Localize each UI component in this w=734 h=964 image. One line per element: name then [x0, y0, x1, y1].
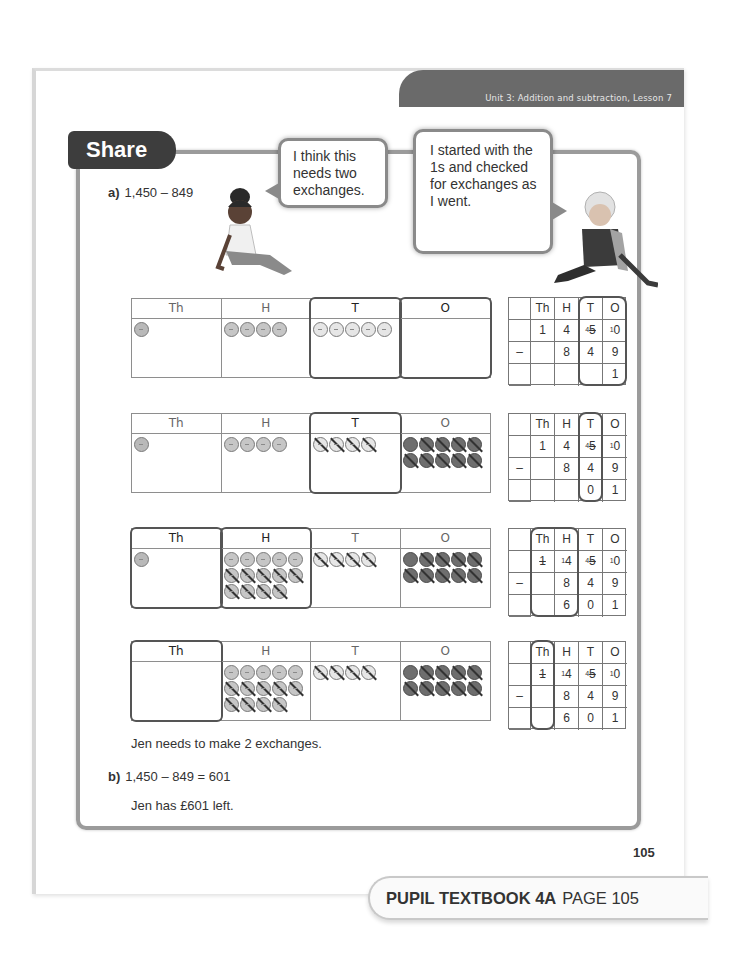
section-title-text: Share: [86, 137, 147, 163]
pv-header: T: [311, 529, 400, 549]
column-method-grid: ThHTO1144510–849601: [508, 528, 626, 616]
counter-icon: [329, 665, 344, 680]
counter-icon: [403, 552, 418, 567]
counter-icon: [224, 584, 239, 599]
pv-header: T: [311, 299, 400, 319]
page-number: 105: [633, 845, 655, 860]
column-method-cell: [531, 686, 555, 708]
footer-tab: PUPIL TEXTBOOK 4A PAGE 105: [368, 876, 708, 920]
counter-icon: [419, 437, 434, 452]
column-method-cell: Th: [531, 298, 555, 320]
counter-icon: [240, 552, 255, 567]
counter-icon: [256, 322, 271, 337]
counter-icon: [256, 697, 271, 712]
counter-icon: [272, 665, 287, 680]
column-method-cell: 45: [579, 664, 603, 686]
pv-column-h: H: [222, 414, 312, 492]
column-method-cell: 45: [579, 436, 603, 458]
column-method-cell: –: [509, 342, 531, 364]
question-b: b)1,450 – 849 = 601: [108, 769, 230, 784]
question-a: a)1,450 – 849: [108, 185, 193, 200]
column-method-cell: 10: [603, 664, 627, 686]
column-method-cell: T: [579, 414, 603, 436]
counter-icon: [224, 322, 239, 337]
counter-icon: [435, 568, 450, 583]
column-method-grid: ThHTO144510–8491: [508, 297, 626, 385]
counter-icon: [256, 681, 271, 696]
column-method-cell: 9: [603, 686, 627, 708]
counter-icon: [240, 681, 255, 696]
column-method-cell: O: [603, 642, 627, 664]
column-method-cell: 8: [555, 342, 579, 364]
counter-icon: [256, 552, 271, 567]
column-method-cell: Th: [531, 642, 555, 664]
counter-icon: [361, 552, 376, 567]
column-method-cell: 45: [579, 551, 603, 573]
column-method-cell: [509, 480, 531, 502]
place-value-grid: ThHTO: [131, 413, 491, 493]
column-method-cell: 1: [603, 480, 627, 502]
column-method-cell: Th: [531, 529, 555, 551]
counter-icon: [272, 437, 287, 452]
pv-header: H: [222, 642, 311, 662]
column-method-cell: 4: [579, 686, 603, 708]
counter-icon: [256, 584, 271, 599]
counter-icon: [345, 322, 360, 337]
column-method-cell: 8: [555, 573, 579, 595]
counter-icon: [467, 437, 482, 452]
column-method-cell: O: [603, 529, 627, 551]
counter-icon: [134, 552, 149, 567]
footer-page: PAGE 105: [562, 889, 639, 908]
question-a-expression: 1,450 – 849: [125, 185, 194, 200]
column-method-grid: ThHTO144510–84901: [508, 413, 626, 501]
column-method-cell: [531, 708, 555, 730]
footer-book-title: PUPIL TEXTBOOK 4A: [386, 889, 556, 908]
counter-icon: [272, 681, 287, 696]
counter-icon: [224, 665, 239, 680]
counter-icon: [467, 568, 482, 583]
column-method-cell: 9: [603, 342, 627, 364]
place-value-grid: ThHTO: [131, 528, 491, 608]
column-method-cell: [531, 595, 555, 617]
counter-icon: [435, 681, 450, 696]
counter-icon: [224, 437, 239, 452]
counter-icon: [134, 437, 149, 452]
column-method-cell: [531, 480, 555, 502]
counter-icon: [467, 453, 482, 468]
counter-icon: [361, 437, 376, 452]
counter-icon: [224, 568, 239, 583]
counter-icon: [224, 697, 239, 712]
counter-icon: [313, 552, 328, 567]
counter-icon: [224, 552, 239, 567]
pv-header: O: [401, 642, 491, 662]
column-method-cell: [509, 664, 531, 686]
pv-column-o: O: [401, 299, 491, 377]
column-method-cell: O: [603, 298, 627, 320]
column-method-cell: 14: [555, 551, 579, 573]
pv-header: Th: [132, 642, 221, 662]
counter-icon: [240, 697, 255, 712]
pv-column-o: O: [401, 642, 491, 720]
column-method-cell: [509, 708, 531, 730]
column-method-cell: 8: [555, 686, 579, 708]
counter-icon: [403, 665, 418, 680]
counter-icon: [329, 322, 344, 337]
counter-icon: [224, 681, 239, 696]
counter-icon: [451, 568, 466, 583]
column-method-cell: –: [509, 458, 531, 480]
pv-column-h: H: [222, 529, 312, 607]
pv-column-t: T: [311, 414, 401, 492]
counter-icon: [272, 584, 287, 599]
speech-bubble-text: I started with the 1s and checked for ex…: [430, 142, 537, 209]
column-method-cell: 10: [603, 551, 627, 573]
counter-icon: [419, 453, 434, 468]
counter-icon: [313, 437, 328, 452]
counter-icon: [419, 552, 434, 567]
counter-icon: [345, 665, 360, 680]
counter-icon: [361, 665, 376, 680]
column-method-cell: 0: [579, 480, 603, 502]
column-method-cell: [509, 529, 531, 551]
column-method-cell: [509, 642, 531, 664]
counter-icon: [288, 681, 303, 696]
pv-header: H: [222, 529, 311, 549]
